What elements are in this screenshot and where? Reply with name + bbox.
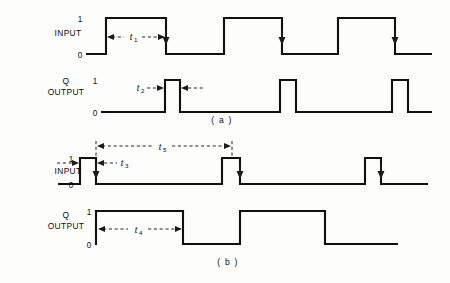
a-output-low-label: 0: [93, 109, 98, 118]
t1-arrowhead-left: [107, 34, 114, 40]
b-edge-marker-2-arrowhead: [237, 171, 244, 179]
a-input-waveform: [86, 18, 432, 54]
b-output-name-label: OUTPUT: [48, 221, 85, 231]
t1-label: t: [130, 32, 133, 42]
b-output-low-label: 0: [87, 241, 92, 250]
b-output-high-label: 1: [87, 208, 92, 217]
timing-diagram-figure: 1 INPUT 0 t 1: [0, 0, 450, 283]
t5-label: t: [159, 142, 162, 152]
t1-label-subscript: 1: [134, 36, 138, 43]
t2-arrowhead-right: [157, 85, 164, 91]
t4-label: t: [135, 225, 138, 235]
t3-label: t: [121, 158, 124, 168]
a-output-waveform: [101, 80, 432, 112]
measurement-t5: t 5: [97, 142, 231, 153]
t3-arrowhead-left: [97, 160, 104, 166]
a-output-q-label: Q: [63, 76, 70, 86]
a-edge-marker-1-arrowhead: [163, 37, 170, 45]
b-output-waveform: [95, 211, 398, 244]
part-label-b: ( b ): [217, 257, 238, 267]
a-input-edge-markers: [163, 30, 399, 45]
t2-label-subscript: 2: [141, 87, 145, 94]
measurement-t1: t 1: [107, 32, 165, 43]
a-input-low-label: 0: [78, 51, 83, 60]
a-input-name-label: INPUT: [55, 28, 82, 38]
t4-arrowhead-right: [175, 226, 182, 232]
t5-arrowhead-left: [97, 143, 104, 149]
signal-a-output-labels: Q 1 OUTPUT 0: [48, 76, 98, 118]
measurement-t4: t 4: [98, 225, 182, 236]
signal-b-output-labels: Q 1 OUTPUT 0: [48, 208, 92, 250]
b-input-low-label: 0: [69, 181, 74, 190]
b-edge-marker-1-arrowhead: [93, 171, 100, 179]
a-edge-marker-2-arrowhead: [279, 37, 286, 45]
t4-arrowhead-left: [98, 226, 105, 232]
b-output-q-label: Q: [63, 210, 70, 220]
t5-arrowhead-right: [224, 143, 231, 149]
b-input-edge-markers: [93, 164, 385, 179]
b-input-name-label: INPUT: [55, 166, 82, 176]
measurement-t3: t 3: [97, 158, 129, 169]
a-output-name-label: OUTPUT: [48, 87, 85, 97]
a-output-high-label: 1: [93, 77, 98, 86]
t2b-arrowhead-left: [181, 85, 188, 91]
section-a: 1 INPUT 0 t 1: [48, 15, 432, 125]
t5-label-subscript: 5: [163, 146, 167, 153]
timing-diagram-svg: 1 INPUT 0 t 1: [0, 0, 450, 283]
signal-a-input-labels: 1 INPUT 0: [55, 15, 83, 60]
b-edge-marker-3-arrowhead: [378, 171, 385, 179]
measurement-t2: t 2: [137, 83, 205, 94]
t3-label-subscript: 3: [125, 162, 129, 169]
a-edge-marker-3-arrowhead: [392, 37, 399, 45]
t4-label-subscript: 4: [139, 229, 143, 236]
part-label-a: ( a ): [211, 115, 232, 125]
section-b: 1 INPUT 0 t 5: [48, 141, 428, 267]
a-input-high-label: 1: [78, 15, 83, 24]
t2-label: t: [137, 83, 140, 93]
